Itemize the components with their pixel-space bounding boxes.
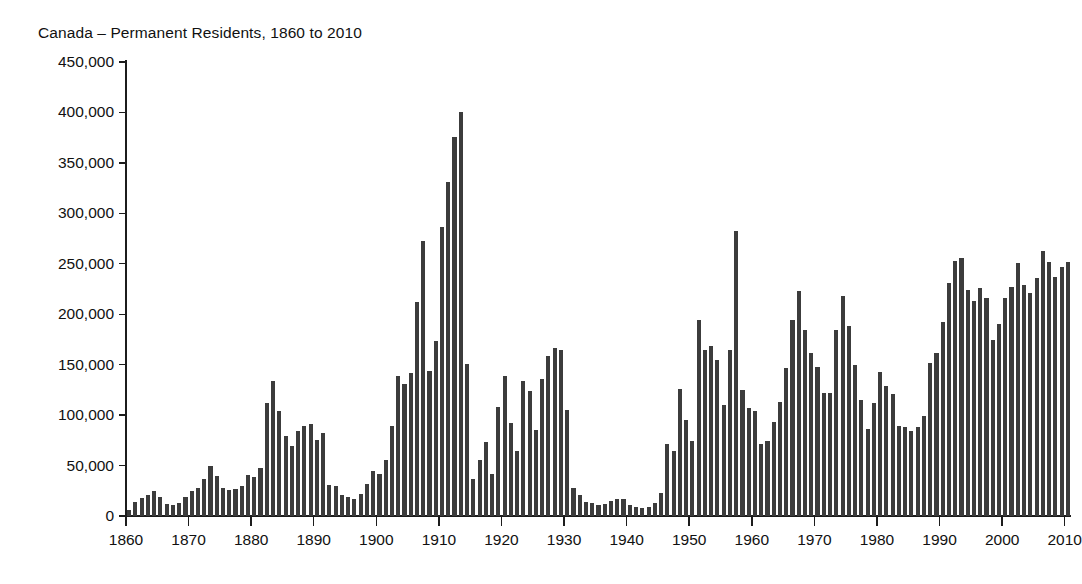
bar (928, 363, 932, 516)
bar (1009, 287, 1013, 516)
x-axis-label: 1930 (547, 531, 581, 549)
x-axis-tick (125, 517, 127, 526)
bar (584, 502, 588, 517)
bar (709, 346, 713, 516)
bar (1060, 267, 1064, 516)
bar (734, 231, 738, 516)
bar (972, 301, 976, 516)
x-axis-tick (376, 517, 378, 526)
bar (784, 368, 788, 516)
bar (252, 477, 256, 516)
x-axis-label: 1860 (109, 531, 143, 549)
x-axis-tick (250, 517, 252, 526)
bar (421, 241, 425, 516)
bar (152, 491, 156, 516)
y-axis-label: 0 (0, 507, 114, 525)
bar (265, 403, 269, 516)
bar (1028, 293, 1032, 516)
bar (672, 451, 676, 516)
bar (822, 393, 826, 516)
bar (471, 479, 475, 516)
x-axis-tick (751, 517, 753, 526)
bar (490, 474, 494, 516)
bar (703, 350, 707, 516)
bar-series (126, 62, 1071, 516)
bar (872, 403, 876, 516)
x-axis-tick (1064, 517, 1066, 526)
bar (327, 485, 331, 516)
x-axis-label: 1870 (171, 531, 205, 549)
bar (903, 427, 907, 516)
x-axis-label: 1920 (484, 531, 518, 549)
bar (509, 423, 513, 516)
bar (866, 429, 870, 516)
bar (409, 373, 413, 516)
chart-title: Canada – Permanent Residents, 1860 to 20… (38, 24, 362, 42)
x-axis-label: 1980 (860, 531, 894, 549)
bar (440, 227, 444, 516)
bar (603, 504, 607, 516)
bar (427, 371, 431, 516)
bar (565, 410, 569, 516)
x-axis-label: 1900 (359, 531, 393, 549)
bar (590, 503, 594, 516)
bar (384, 460, 388, 516)
bar (809, 353, 813, 516)
bar (165, 504, 169, 516)
bar (847, 326, 851, 516)
x-axis-tick (188, 517, 190, 526)
bar (878, 372, 882, 516)
bar (302, 426, 306, 516)
bar (934, 353, 938, 516)
x-axis-tick (313, 517, 315, 526)
bar (390, 426, 394, 516)
bar (772, 422, 776, 516)
bar (215, 476, 219, 516)
bar (941, 322, 945, 516)
bar (997, 324, 1001, 516)
bar (434, 341, 438, 516)
bar (684, 420, 688, 516)
y-axis-label: 200,000 (0, 305, 114, 323)
bar (246, 475, 250, 516)
bar (853, 365, 857, 516)
bar (233, 489, 237, 516)
bar (352, 499, 356, 516)
bar (340, 495, 344, 516)
x-axis-label: 2000 (985, 531, 1019, 549)
bar (1016, 263, 1020, 516)
bar (346, 497, 350, 516)
bar (196, 488, 200, 516)
bar (521, 381, 525, 516)
bar (1041, 251, 1045, 516)
bar (665, 444, 669, 516)
y-axis-tick (119, 314, 126, 315)
x-axis-tick (876, 517, 878, 526)
bar (978, 288, 982, 516)
bar (183, 497, 187, 516)
bar (459, 112, 463, 516)
bar (1053, 277, 1057, 516)
x-axis-tick (563, 517, 565, 526)
bar (922, 416, 926, 516)
bar (540, 379, 544, 516)
y-axis-tick (119, 162, 126, 163)
x-axis-label: 2010 (1047, 531, 1081, 549)
bar (1047, 262, 1051, 516)
bar (158, 497, 162, 516)
bar (647, 507, 651, 516)
bar (909, 431, 913, 516)
bar (841, 296, 845, 516)
y-axis-tick (119, 263, 126, 264)
bar (296, 431, 300, 516)
bar (402, 384, 406, 516)
bar (891, 394, 895, 516)
y-axis-label: 400,000 (0, 103, 114, 121)
bar (571, 488, 575, 516)
bar (484, 442, 488, 516)
bar (202, 479, 206, 516)
bar (659, 493, 663, 516)
bar (634, 507, 638, 516)
x-axis-label: 1880 (234, 531, 268, 549)
